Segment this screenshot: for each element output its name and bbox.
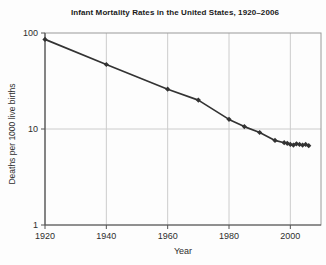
y-tick-label: 1 (33, 220, 38, 230)
data-point-marker (165, 87, 170, 92)
y-tick-label: 100 (23, 28, 38, 38)
data-line (45, 39, 309, 145)
data-point-marker (242, 124, 247, 129)
x-tick-label: 1960 (158, 231, 178, 241)
x-tick-label: 1940 (96, 231, 116, 241)
data-point-marker (104, 62, 109, 67)
x-tick-label: 1980 (219, 231, 239, 241)
data-point-marker (42, 37, 47, 42)
chart-figure: Infant Mortality Rates in the United Sta… (0, 0, 326, 265)
x-axis-label: Year (45, 246, 321, 256)
plot-area: 19201940196019802000110100 (0, 0, 326, 265)
x-tick-label: 1920 (35, 231, 55, 241)
y-tick-label: 10 (28, 124, 38, 134)
x-tick-label: 2000 (280, 231, 300, 241)
